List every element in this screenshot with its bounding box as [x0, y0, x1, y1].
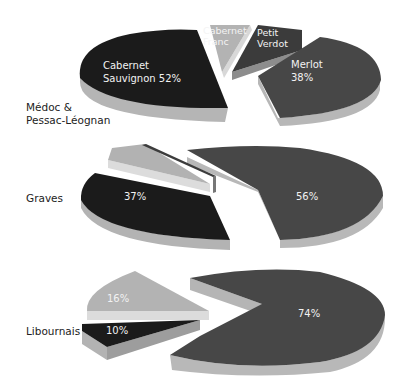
slice-label-medoc-cabernet-franc: Cabernet Franc	[203, 25, 247, 47]
slice-label-medoc-cabernet-sauvignon: Cabernet Sauvignon 52%	[103, 59, 181, 85]
slice-libournais-cabernet-franc-side	[87, 311, 209, 320]
slice-graves-petit-verdot-side	[213, 176, 216, 193]
slice-label-libournais-cabernet-sauvignon: 10%	[106, 324, 128, 337]
slice-label-graves-cabernet-sauvignon: 37%	[124, 190, 146, 203]
region-label-libournais: Libournais	[26, 325, 80, 338]
slice-label-libournais-cabernet-franc: 16%	[107, 292, 129, 305]
slice-label-medoc-petit-verdot: Petit Verdot	[257, 27, 288, 49]
slice-label-libournais-merlot: 74%	[298, 307, 320, 320]
region-label-medoc: Médoc & Pessac-Léognan	[26, 101, 110, 127]
slice-label-graves-merlot: 56%	[296, 190, 318, 203]
slice-libournais-cabernet-franc	[87, 271, 209, 311]
region-label-graves: Graves	[26, 192, 63, 205]
slice-label-medoc-merlot: Merlot 38%	[291, 58, 323, 84]
pie-libournais	[82, 270, 385, 376]
